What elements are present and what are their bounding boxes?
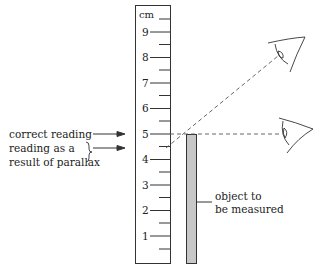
arrow-correct-reading [93,132,125,137]
label-correct-reading: correct reading [9,128,92,140]
label-parallax-line2: result of parallax [9,156,100,168]
ruler-mark-4: 4 [142,153,149,165]
ruler-mark-9: 9 [142,26,149,38]
object-bar [187,135,197,264]
label-object-line2: be measured [215,203,284,215]
ruler-mark-6: 6 [142,102,149,114]
ruler-mark-5: 5 [142,128,149,140]
eye-icon-upper [268,37,305,72]
eye-icon-lower [279,118,313,153]
label-parallax-line1: reading as a [9,142,75,154]
ruler-mark-2: 2 [142,204,149,216]
label-object-line1: object to [215,190,262,202]
ruler-mark-1: 1 [142,230,149,242]
ruler-mark-8: 8 [142,51,149,63]
arrow-parallax-reading [93,146,125,151]
ruler-mark-7: 7 [142,77,149,89]
ruler-mark-3: 3 [142,179,149,191]
ruler-unit-label: cm [139,9,154,21]
